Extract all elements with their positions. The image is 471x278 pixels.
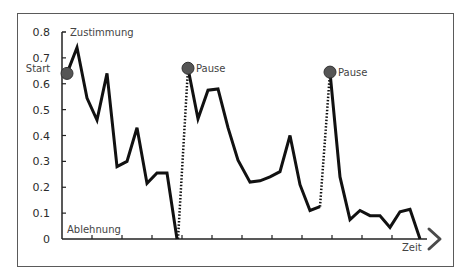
axis-label-ablehnung: Ablehnung — [67, 224, 121, 235]
marker-pause — [182, 62, 194, 74]
y-tick-label: 0.6 — [33, 78, 51, 91]
y-tick-label: 0.3 — [33, 155, 51, 168]
x-axis-label: Zeit — [402, 242, 422, 253]
y-axis-ticks: 00.10.20.30.40.50.60.70.8 — [33, 26, 67, 246]
series-line — [67, 48, 177, 240]
axis-label-zustimmung: Zustimmung — [70, 27, 134, 38]
dotted-connector — [320, 72, 330, 207]
marker-start — [61, 67, 73, 79]
series-line — [330, 72, 420, 239]
dotted-connectors — [178, 68, 330, 239]
series-line — [188, 68, 320, 210]
chart: 00.10.20.30.40.50.60.70.8 StartPausePaus… — [0, 0, 471, 278]
markers: StartPausePause — [26, 62, 368, 79]
y-tick-label: 0 — [43, 233, 50, 246]
marker-label: Start — [26, 63, 51, 74]
marker-label: Pause — [338, 67, 367, 78]
y-tick-label: 0.8 — [33, 26, 51, 39]
y-tick-label: 0.1 — [33, 207, 51, 220]
dotted-connector — [178, 68, 188, 239]
x-axis-arrow-icon — [429, 229, 440, 249]
marker-label: Pause — [196, 63, 225, 74]
y-tick-label: 0.2 — [33, 181, 51, 194]
y-tick-label: 0.5 — [33, 104, 51, 117]
marker-pause — [324, 66, 336, 78]
y-tick-label: 0.4 — [33, 130, 51, 143]
